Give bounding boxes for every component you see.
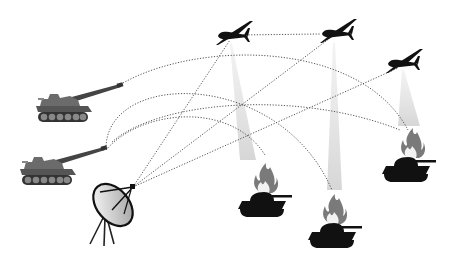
drone-1 [216,21,253,45]
fire-arc-artillery1-tank3 [123,55,408,130]
drone-3-sensor-cone [398,70,420,126]
drone-2-sensor-cone [327,43,342,190]
fire-arc-artillery2-tank2 [106,94,332,190]
tank-1-burning [238,163,292,217]
fire-arc-artillery2-tank1 [112,105,400,142]
tank-2-burning [308,194,362,248]
link-drone1-drone2 [240,34,320,35]
artillery-2 [20,145,107,185]
network-links [106,34,408,190]
artillery-1 [36,82,123,122]
drone-3 [386,49,423,73]
tank-3-burning [382,128,436,182]
drone-2 [320,19,357,43]
diagram-canvas: Networked fires: drones relay targeting … [0,0,456,259]
satellite-dish [85,176,140,246]
